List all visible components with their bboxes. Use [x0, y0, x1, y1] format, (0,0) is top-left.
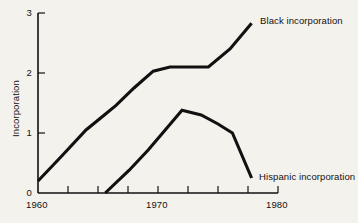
chart-figure: 0 1 2 3 1960 1970 1980 Incorporation Bla… [0, 0, 358, 223]
y-axis-title: Incorporation [10, 63, 21, 155]
series-line-hispanic-incorporation [105, 110, 251, 193]
x-tick-label-1980: 1980 [266, 199, 288, 210]
x-tick-label-1960: 1960 [26, 199, 48, 210]
y-tick-label-3: 3 [20, 7, 32, 18]
y-tick-label-1: 1 [20, 127, 32, 138]
series-label-black-incorporation: Black incorporation [260, 15, 343, 26]
series-label-hispanic-incorporation: Hispanic incorporation [259, 171, 355, 182]
x-axis-ticks [68, 186, 278, 193]
y-tick-label-2: 2 [20, 67, 32, 78]
y-axis-ticks [38, 13, 45, 133]
chart-plot-area [0, 0, 358, 223]
series-line-black-incorporation [38, 23, 252, 181]
y-tick-label-0: 0 [20, 187, 32, 198]
x-tick-label-1970: 1970 [146, 199, 168, 210]
